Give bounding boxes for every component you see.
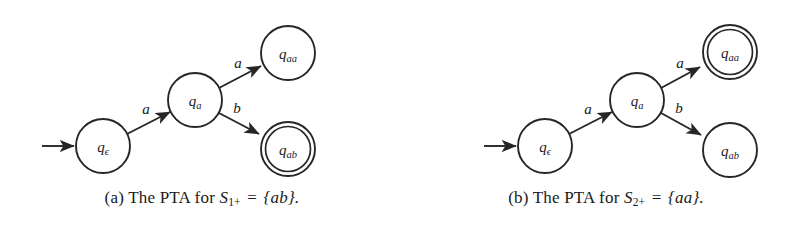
caption-a-prefix: (a): [105, 188, 124, 207]
caption-b-set-subscript: 2+: [633, 196, 646, 208]
state-node-q-aa[interactable]: qaa: [261, 26, 315, 80]
caption-a: (a) The PTA for S1+ = {ab}.: [0, 188, 404, 208]
caption-b-set-symbol: S: [624, 188, 633, 207]
edge-label-qa-qaa: a: [676, 55, 684, 71]
automaton-diagram-a: a a b qϵ qa qaa: [0, 0, 404, 190]
caption-b-prefix: (b): [508, 188, 528, 207]
state-node-q-aa-accepting[interactable]: qaa: [703, 25, 757, 79]
state-node-q-ab-accepting[interactable]: qab: [261, 122, 315, 176]
automaton-diagram-b: a a b qϵ qa qaa: [404, 0, 808, 190]
subfigure-a: a a b qϵ qa qaa: [0, 0, 404, 231]
edge-label-qa-qab: b: [675, 100, 683, 116]
caption-a-equals: =: [245, 188, 259, 207]
edge-label-qa-qaa: a: [234, 55, 242, 71]
edge-label-qepsilon-qa: a: [142, 101, 150, 117]
caption-b-words: The PTA for: [533, 188, 620, 207]
caption-a-set-symbol: S: [219, 188, 228, 207]
figure-pair: a a b qϵ qa qaa: [0, 0, 808, 231]
edge-label-qepsilon-qa: a: [584, 101, 592, 117]
caption-a-words: The PTA for: [128, 188, 215, 207]
caption-a-set-value: {ab}.: [264, 188, 300, 207]
state-node-q-epsilon[interactable]: qϵ: [76, 119, 130, 173]
state-node-q-epsilon[interactable]: qϵ: [518, 119, 572, 173]
caption-b: (b) The PTA for S2+ = {aa}.: [404, 188, 808, 208]
state-node-q-ab[interactable]: qab: [703, 123, 757, 177]
caption-b-equals: =: [650, 188, 664, 207]
state-node-q-a[interactable]: qa: [610, 73, 664, 127]
edge-qa-to-qab: [219, 113, 259, 134]
edge-qa-to-qab: [661, 113, 701, 135]
caption-b-set-value: {aa}.: [668, 188, 704, 207]
state-node-q-a[interactable]: qa: [168, 73, 222, 127]
caption-a-set-subscript: 1+: [228, 196, 241, 208]
subfigure-b: a a b qϵ qa qaa: [404, 0, 808, 231]
edge-label-qa-qab: b: [233, 100, 241, 116]
